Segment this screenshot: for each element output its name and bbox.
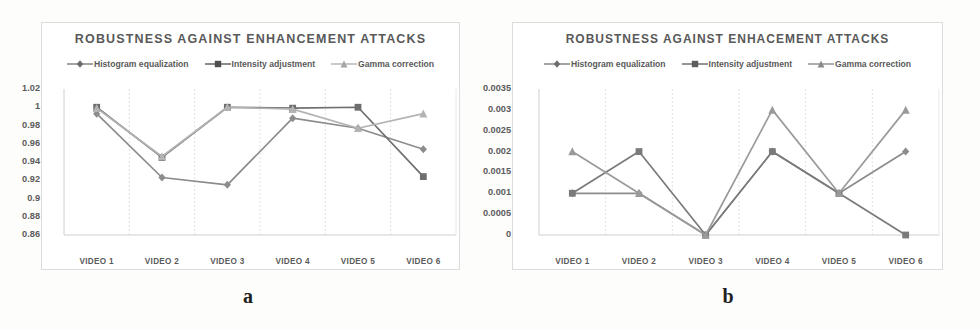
chart-panel-a: ROBUSTNESS AGAINST ENHANCEMENT ATTACKS H… (41, 22, 460, 270)
y-tick-label: 0.001 (488, 188, 511, 197)
y-tick-label: 0 (506, 230, 511, 239)
y-tick-label: 1.02 (22, 84, 40, 93)
y-tick-label: 0.96 (22, 139, 40, 148)
y-tick-label: 0.9 (27, 194, 40, 203)
data-point-triangle (568, 147, 576, 155)
plot-area-b (513, 23, 942, 269)
y-tick-label: 0.0015 (483, 167, 511, 176)
y-tick-label: 1 (35, 102, 40, 111)
x-tick-label: VIDEO 3 (210, 257, 244, 266)
x-tick-label: VIDEO 3 (688, 257, 722, 266)
y-tick-label: 0.98 (22, 121, 40, 130)
data-point-triangle (902, 106, 910, 114)
y-tick-label: 0.0025 (483, 126, 511, 135)
plot-area-a (42, 23, 459, 269)
data-point-triangle (768, 106, 776, 114)
y-tick-label: 0.94 (22, 157, 40, 166)
data-point-square (636, 148, 643, 155)
x-tick-label: VIDEO 2 (622, 257, 656, 266)
data-point-square (420, 173, 427, 180)
figure-caption-a: a (243, 285, 253, 308)
data-point-square (769, 148, 776, 155)
x-tick-label: VIDEO 5 (341, 257, 375, 266)
x-tick-label: VIDEO 1 (555, 257, 589, 266)
y-tick-label: 0.88 (22, 212, 40, 221)
data-point-diamond (420, 145, 427, 153)
data-point-square (355, 104, 362, 111)
y-tick-label: 0.86 (22, 230, 40, 239)
y-tick-label: 0.0035 (483, 84, 511, 93)
y-tick-label: 0.003 (488, 105, 511, 114)
chart-panel-b: ROBUSTNESS AGAINST ENHACEMENT ATTACKS Hi… (512, 22, 943, 270)
data-point-diamond (902, 148, 909, 156)
x-tick-label: VIDEO 6 (406, 257, 440, 266)
x-tick-label: VIDEO 5 (822, 257, 856, 266)
x-tick-label: VIDEO 4 (755, 257, 789, 266)
y-tick-label: 0.92 (22, 175, 40, 184)
data-point-square (902, 232, 909, 239)
x-tick-label: VIDEO 6 (888, 257, 922, 266)
y-tick-label: 0.0005 (483, 209, 511, 218)
x-tick-label: VIDEO 4 (275, 257, 309, 266)
y-tick-label: 0.002 (488, 147, 511, 156)
figure-caption-b: b (722, 285, 733, 308)
x-tick-label: VIDEO 2 (145, 257, 179, 266)
data-point-square (569, 190, 576, 197)
x-tick-label: VIDEO 1 (79, 257, 113, 266)
